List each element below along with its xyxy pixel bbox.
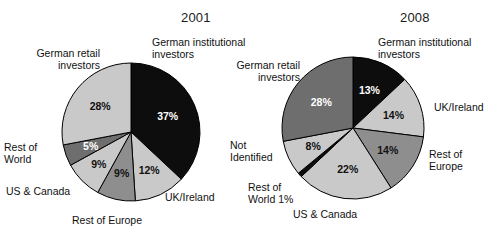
pie2008-value-us-canada: 22% [337,163,359,175]
label-2008-us-canada: US & Canada [293,208,383,220]
pie-charts-figure: 2001 37%12%9%9%5%28% German retail inves… [0,0,495,246]
label-2008-rest-of-world: Rest of World 1% [248,181,308,205]
label-2008-rest-of-europe: Rest of Europe [429,148,487,172]
pie2008-value-german-retail-investors: 28% [311,96,333,108]
label-2008-uk-ireland: UK/Ireland [434,101,495,113]
label-2008-not-identified: Not Identified [230,139,288,163]
label-2008-german-retail-investors: German retail investors [218,59,300,83]
pie2008-value-not-identified: 8% [306,140,322,152]
pie2008-value-uk-ireland: 14% [383,109,405,121]
pie2008-value-rest-of-europe: 14% [377,144,399,156]
label-2008-german-institutional-investors: German institutional investors [378,36,494,60]
pie2008-value-german-institutional-investors: 13% [359,84,381,96]
